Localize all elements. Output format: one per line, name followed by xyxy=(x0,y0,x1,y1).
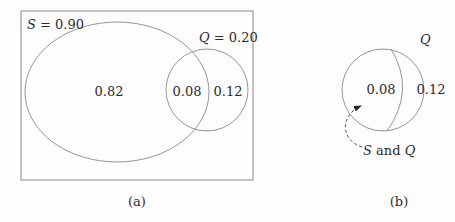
venn-diagram-figure: S = 0.90 Q = 0.20 0.82 0.08 0.12 (a) Q 0… xyxy=(0,0,455,222)
set-q-label: Q = 0.20 xyxy=(199,30,258,45)
caption-b: (b) xyxy=(390,194,408,209)
s-and-q-annotation: S and Q xyxy=(363,143,416,158)
region-q-only-value-b: 0.12 xyxy=(417,82,446,97)
panel-b: Q 0.08 0.12 S and Q (b) xyxy=(342,32,445,209)
region-s-only-value: 0.82 xyxy=(95,84,124,99)
region-s-and-q-value-b: 0.08 xyxy=(367,82,396,97)
dashed-arrow-icon xyxy=(345,106,362,147)
region-q-only-value: 0.12 xyxy=(214,84,243,99)
set-s-label: S = 0.90 xyxy=(27,17,84,32)
panel-a: S = 0.90 Q = 0.20 0.82 0.08 0.12 (a) xyxy=(21,11,258,209)
caption-a: (a) xyxy=(128,194,146,209)
region-s-and-q-value: 0.08 xyxy=(173,84,202,99)
set-q-label-b: Q xyxy=(420,32,431,47)
